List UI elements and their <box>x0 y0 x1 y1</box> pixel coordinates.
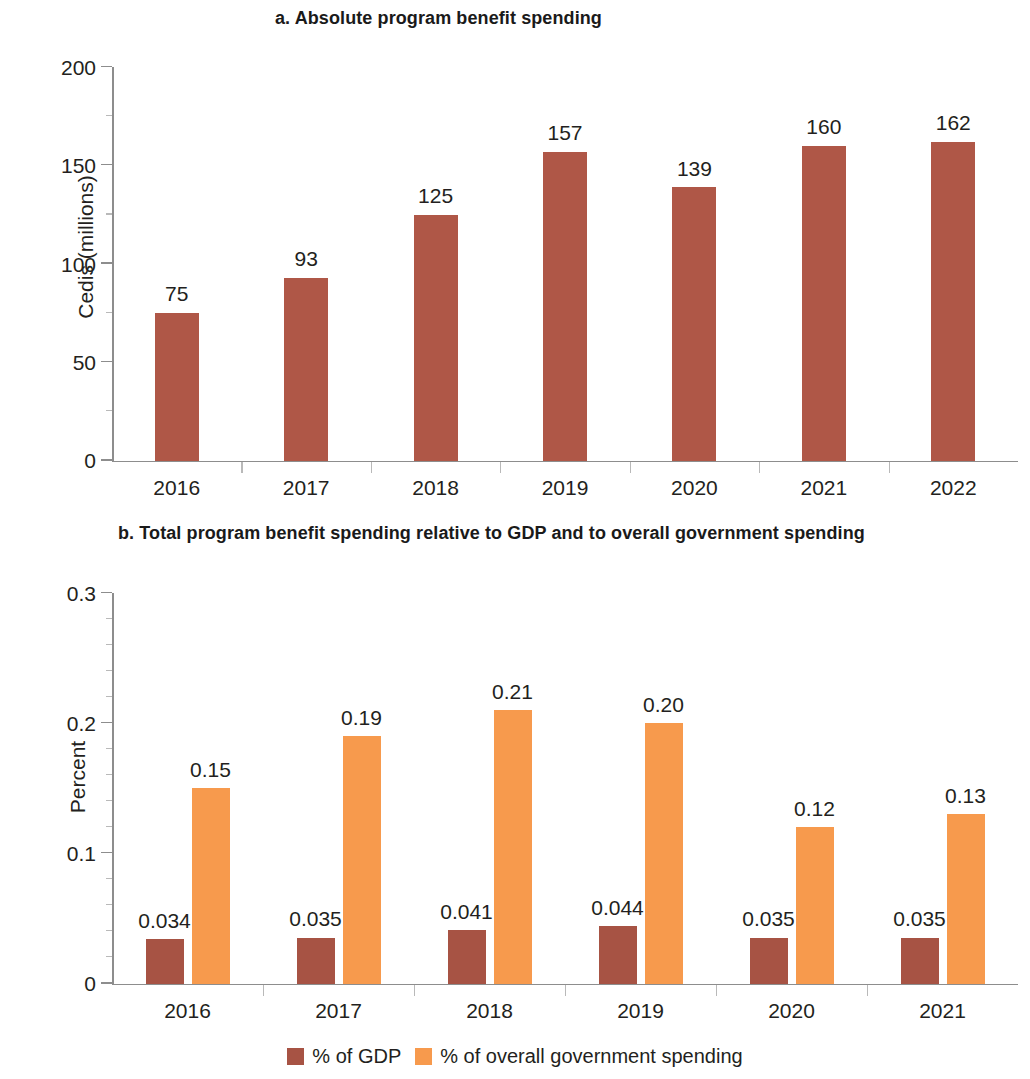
x-tick-label: 2022 <box>930 476 977 500</box>
bar-value-label: 0.041 <box>440 900 493 924</box>
x-tick-mark <box>500 462 501 473</box>
y-tick-minor <box>106 748 112 749</box>
bar-value-label: 0.15 <box>190 758 231 782</box>
bar-absolute-spending <box>155 313 199 461</box>
bar-percent-of-government-spending <box>645 723 683 983</box>
legend-item: % of overall government spending <box>415 1045 742 1068</box>
legend-swatch-icon <box>415 1048 432 1065</box>
x-tick-mark <box>889 462 890 473</box>
chart-a-absolute-spending: Cedis (millions) 050100150200 2016201720… <box>0 55 1030 475</box>
bar-percent-of-gdp <box>599 926 637 983</box>
bar-value-label: 162 <box>936 111 971 135</box>
x-tick-label: 2018 <box>412 476 459 500</box>
chart-a-y-axis-title: Cedis (millions) <box>74 175 98 319</box>
y-tick-minor <box>106 115 112 116</box>
x-tick-label: 2018 <box>466 999 513 1023</box>
bar-percent-of-government-spending <box>192 788 230 983</box>
chart-b-y-axis-title: Percent <box>66 741 90 813</box>
bar-absolute-spending <box>414 215 458 461</box>
x-tick-label: 2020 <box>768 999 815 1023</box>
y-tick-label: 0 <box>84 972 96 996</box>
x-tick-label: 2021 <box>919 999 966 1023</box>
y-tick-label: 100 <box>61 253 96 277</box>
x-tick-mark <box>263 985 264 996</box>
bar-absolute-spending <box>284 278 328 461</box>
bar-percent-of-government-spending <box>947 814 985 983</box>
y-tick-mark <box>101 982 112 984</box>
y-tick-minor <box>106 800 112 801</box>
bar-percent-of-gdp <box>750 938 788 984</box>
y-tick-minor <box>106 696 112 697</box>
bar-value-label: 0.035 <box>742 907 795 931</box>
y-tick-label: 0.3 <box>67 582 96 606</box>
x-tick-label: 2016 <box>153 476 200 500</box>
bar-value-label: 139 <box>677 157 712 181</box>
bar-percent-of-gdp <box>448 930 486 983</box>
bar-percent-of-gdp <box>146 939 184 983</box>
y-tick-label: 0.1 <box>67 842 96 866</box>
y-tick-minor <box>106 826 112 827</box>
bar-value-label: 0.034 <box>138 909 191 933</box>
y-tick-minor <box>106 878 112 879</box>
bar-value-label: 160 <box>806 115 841 139</box>
bar-value-label: 75 <box>165 282 188 306</box>
bar-value-label: 0.044 <box>591 896 644 920</box>
y-tick-mark <box>101 852 112 854</box>
bar-value-label: 0.13 <box>945 784 986 808</box>
y-tick-minor <box>106 618 112 619</box>
panel-b-title: b. Total program benefit spending relati… <box>118 523 865 544</box>
y-tick-label: 0 <box>84 449 96 473</box>
chart-b-y-axis-line <box>112 593 114 985</box>
bar-value-label: 157 <box>547 121 582 145</box>
bar-absolute-spending <box>802 146 846 461</box>
x-tick-label: 2019 <box>617 999 664 1023</box>
chart-a-plot-area: Cedis (millions) 050100150200 2016201720… <box>112 67 1018 462</box>
chart-b-relative-spending: Percent 00.10.20.3 201620172018201920202… <box>0 575 1030 1045</box>
y-tick-label: 200 <box>61 56 96 80</box>
y-tick-mark <box>101 722 112 724</box>
chart-b-plot-area: Percent 00.10.20.3 201620172018201920202… <box>112 593 1018 985</box>
chart-a-y-axis-line <box>112 67 114 462</box>
figure-page: a. Absolute program benefit spending Ced… <box>0 0 1030 1079</box>
y-tick-minor <box>106 956 112 957</box>
y-tick-mark <box>101 361 112 363</box>
bar-value-label: 93 <box>294 247 317 271</box>
bar-value-label: 0.035 <box>289 907 342 931</box>
x-tick-mark <box>630 462 631 473</box>
y-tick-minor <box>106 774 112 775</box>
bar-absolute-spending <box>931 142 975 461</box>
chart-a-x-axis-line <box>112 461 1018 463</box>
x-tick-mark <box>371 462 372 473</box>
x-tick-label: 2020 <box>671 476 718 500</box>
y-tick-minor <box>106 410 112 411</box>
y-tick-minor <box>106 213 112 214</box>
bar-percent-of-gdp <box>297 938 335 984</box>
y-tick-minor <box>106 904 112 905</box>
bar-value-label: 0.21 <box>492 680 533 704</box>
y-tick-mark <box>101 66 112 68</box>
y-tick-mark <box>101 262 112 264</box>
y-tick-minor <box>106 930 112 931</box>
y-tick-minor <box>106 644 112 645</box>
chart-b-legend: % of GDP% of overall government spending <box>0 1045 1030 1068</box>
bar-percent-of-government-spending <box>796 827 834 983</box>
y-tick-mark <box>101 164 112 166</box>
x-tick-mark <box>414 985 415 996</box>
x-tick-mark <box>716 985 717 996</box>
x-tick-label: 2017 <box>315 999 362 1023</box>
x-tick-label: 2017 <box>283 476 330 500</box>
bar-value-label: 0.12 <box>794 797 835 821</box>
panel-a-title: a. Absolute program benefit spending <box>275 8 602 29</box>
x-tick-mark <box>241 462 242 473</box>
bar-absolute-spending <box>543 152 587 461</box>
x-tick-mark <box>867 985 868 996</box>
legend-label: % of GDP <box>312 1045 401 1068</box>
y-tick-label: 150 <box>61 154 96 178</box>
bar-value-label: 0.19 <box>341 706 382 730</box>
bar-percent-of-government-spending <box>494 710 532 983</box>
bar-value-label: 125 <box>418 184 453 208</box>
y-tick-mark <box>101 459 112 461</box>
y-tick-minor <box>106 312 112 313</box>
bar-value-label: 0.20 <box>643 693 684 717</box>
x-tick-label: 2021 <box>800 476 847 500</box>
